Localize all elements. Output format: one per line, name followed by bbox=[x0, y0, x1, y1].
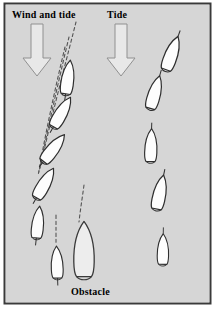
tide-label: Tide bbox=[107, 9, 127, 20]
obstacle-label: Obstacle bbox=[71, 286, 110, 297]
wind-and-tide-label: Wind and tide bbox=[12, 9, 76, 20]
diagram-figure: Wind and tide Tide Obstacle bbox=[0, 0, 218, 316]
diagram-canvas bbox=[0, 0, 218, 316]
